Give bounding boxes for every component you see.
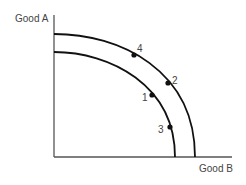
point-1-label: 1 — [142, 92, 148, 103]
point-2-marker — [165, 80, 170, 85]
x-axis-label: Good B — [199, 163, 233, 174]
point-3-marker — [167, 124, 172, 129]
point-1-marker — [149, 92, 154, 97]
point-4-marker — [131, 52, 136, 57]
y-axis-label: Good A — [15, 13, 49, 24]
point-2-label: 2 — [172, 75, 178, 86]
point-3-label: 3 — [158, 124, 164, 135]
ppf-diagram: Good A Good B 4 2 1 3 — [0, 0, 246, 185]
point-4-label: 4 — [137, 43, 143, 54]
